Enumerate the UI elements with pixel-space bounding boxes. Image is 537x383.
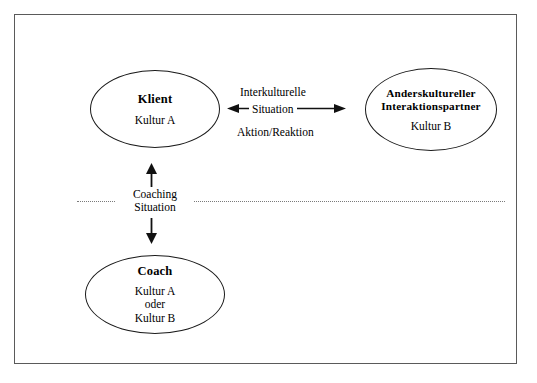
node-coach-subtitle-line3: Kultur B (135, 312, 176, 326)
node-interaktionspartner-title: Anderskultureller Interaktionspartner (381, 87, 481, 113)
node-klient[interactable]: Klient Kultur A (90, 70, 220, 148)
node-coach[interactable]: Coach Kultur A oder Kultur B (85, 255, 225, 334)
label-interkulturelle: Interkulturelle (238, 86, 308, 98)
dotted-separator-right (191, 201, 505, 202)
node-coach-subtitle-line2: oder (135, 298, 176, 312)
label-coaching-situation: Coaching Situation (116, 187, 194, 216)
vertical-arrow-up-icon (145, 163, 158, 189)
node-klient-subtitle: Kultur A (135, 114, 176, 126)
label-interkulturelle-situation: Situation (249, 103, 297, 115)
node-interaktionspartner-title-line2: Interaktionspartner (381, 100, 481, 113)
node-interaktionspartner[interactable]: Anderskultureller Interaktionspartner Ku… (365, 68, 497, 151)
label-coaching-line2: Situation (118, 201, 192, 214)
dotted-separator-left (77, 201, 115, 202)
label-aktion-reaktion: Aktion/Reaktion (237, 126, 314, 138)
node-coach-subtitle-line1: Kultur A (135, 285, 176, 299)
vertical-arrow-down-icon (145, 218, 158, 244)
node-coach-title: Coach (137, 264, 172, 279)
label-coaching-line1: Coaching (118, 188, 192, 201)
node-interaktionspartner-title-line1: Anderskultureller (381, 87, 481, 100)
diagram-frame: Klient Kultur A Anderskultureller Intera… (14, 14, 517, 364)
node-coach-subtitle: Kultur A oder Kultur B (135, 285, 176, 326)
node-interaktionspartner-subtitle: Kultur B (411, 120, 452, 132)
diagram-canvas: Klient Kultur A Anderskultureller Intera… (0, 0, 537, 383)
node-klient-title: Klient (138, 92, 173, 107)
